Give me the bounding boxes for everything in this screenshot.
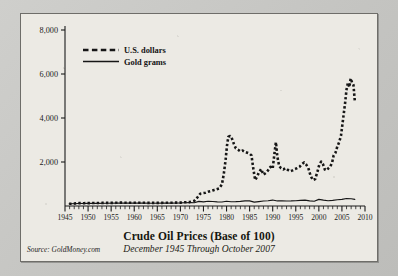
x-axis-tick-label: 1945 xyxy=(57,213,72,222)
x-axis-tick-label: 1960 xyxy=(127,213,142,222)
y-axis-tick-label: 8,000 xyxy=(40,26,58,35)
x-axis-tick-label: 1955 xyxy=(104,213,119,222)
x-axis-tick-label: 1980 xyxy=(219,213,234,222)
x-axis-tick-label: 1950 xyxy=(80,213,95,222)
y-axis-tick-label: 2,000 xyxy=(40,158,58,167)
x-axis-tick-label: 2000 xyxy=(311,213,326,222)
x-axis-tick-label: 1990 xyxy=(265,213,280,222)
series-line-gold-grams xyxy=(69,199,355,204)
x-axis-tick-label: 1985 xyxy=(242,213,257,222)
x-axis-tick-label: 1975 xyxy=(196,213,211,222)
screenshot-page: 2,0004,0006,0008,00019451950195519601965… xyxy=(0,0,398,276)
legend-label: Gold grams xyxy=(124,58,167,67)
crude-oil-price-chart: 2,0004,0006,0008,00019451950195519601965… xyxy=(21,14,377,261)
x-axis-tick-label: 2005 xyxy=(334,213,349,222)
y-axis-tick-label: 6,000 xyxy=(40,70,58,79)
figure-frame: 2,0004,0006,0008,00019451950195519601965… xyxy=(20,13,378,262)
legend-label: U.S. dollars xyxy=(124,46,166,55)
x-axis-tick-label: 1995 xyxy=(288,213,303,222)
source-note: Source: GoldMoney.com xyxy=(27,245,100,254)
x-axis-tick-label: 2010 xyxy=(357,213,372,222)
series-line-u-s-dollars xyxy=(69,78,355,203)
x-axis-tick-label: 1965 xyxy=(150,213,165,222)
x-axis-tick-label: 1970 xyxy=(173,213,188,222)
y-axis-tick-label: 4,000 xyxy=(40,114,58,123)
